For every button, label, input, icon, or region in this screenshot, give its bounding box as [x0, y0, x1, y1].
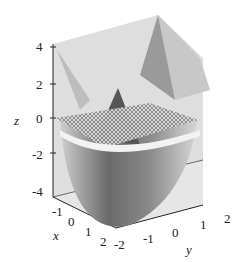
z-tick-4: 4: [36, 40, 43, 53]
y-tick-2: 2: [224, 212, 231, 225]
y-tick-neg1: -1: [143, 232, 154, 245]
x-tick-2: 2: [100, 235, 107, 248]
x-tick-1: 1: [85, 225, 92, 238]
x-tick-neg1: -1: [52, 205, 63, 218]
x-tick-0: 0: [68, 215, 75, 228]
z-tick-0: 0: [36, 112, 43, 125]
z-tick-2: 2: [36, 78, 43, 91]
z-tick-neg4: -4: [32, 185, 43, 198]
z-tick-neg2: -2: [32, 148, 43, 161]
y-tick-0: 0: [172, 226, 179, 239]
y-tick-1: 1: [200, 218, 207, 231]
x-axis-label: x: [53, 228, 59, 244]
z-axis-label: z: [14, 113, 19, 129]
y-axis-label: y: [186, 242, 192, 258]
y-tick-neg2: -2: [114, 238, 125, 251]
